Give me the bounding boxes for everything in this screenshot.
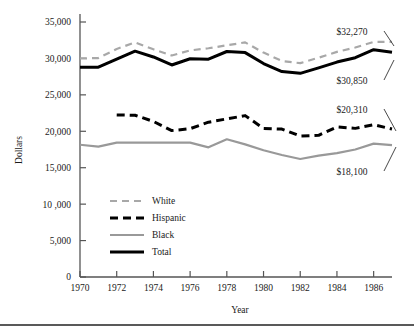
data-series-group (80, 42, 392, 159)
y-axis-tick-label: 25,000 (45, 90, 71, 100)
legend-label: Hispanic (152, 213, 186, 223)
y-axis-tick-label: 20,000 (45, 127, 71, 137)
y-axis-title: Dollars (14, 136, 24, 164)
series-line-hispanic (117, 115, 392, 136)
annotation-label: $18,100 (337, 167, 368, 177)
chart-figure: 05,00010 ,00015,00020,00025,00030,00035,… (0, 0, 414, 330)
x-axis-tick-label: 1984 (327, 283, 346, 293)
x-axis-tick-label: 1970 (71, 283, 90, 293)
y-axis-tick-label: 35,000 (45, 17, 71, 27)
legend-label: White (152, 196, 175, 206)
series-line-black (80, 139, 392, 159)
annotation-label: $20,310 (337, 105, 368, 115)
annotation-leader-line (384, 147, 396, 171)
annotation-label: $30,850 (337, 76, 368, 86)
x-axis-tick-label: 1978 (217, 283, 236, 293)
chart-legend: WhiteHispanicBlackTotal (110, 196, 186, 257)
legend-label: Total (152, 247, 172, 257)
x-axis-tick-label: 1980 (254, 283, 273, 293)
y-axis: 05,00010 ,00015,00020,00025,00030,00035,… (43, 14, 87, 282)
annotation-leader-line (384, 31, 394, 46)
y-axis-tick-label: 10 ,000 (43, 200, 72, 210)
legend-label: Black (152, 230, 174, 240)
annotation-label: $32,270 (337, 27, 368, 37)
x-axis-tick-label: 1982 (291, 283, 310, 293)
series-line-total (80, 50, 392, 74)
y-axis-tick-label: 5,000 (50, 236, 72, 246)
x-axis-title: Year (231, 305, 249, 315)
x-axis-tick-label: 1976 (181, 283, 200, 293)
line-chart: 05,00010 ,00015,00020,00025,00030,00035,… (0, 0, 414, 330)
y-axis-tick-label: 0 (66, 272, 71, 282)
x-axis-tick-label: 1974 (144, 283, 163, 293)
x-axis: 197019721974197619781980198219841986 (71, 271, 393, 293)
annotation-leader-line (384, 60, 394, 80)
y-axis-tick-label: 15,000 (45, 163, 71, 173)
y-axis-tick-label: 30,000 (45, 54, 71, 64)
x-axis-tick-label: 1986 (364, 283, 383, 293)
x-axis-tick-label: 1972 (107, 283, 126, 293)
